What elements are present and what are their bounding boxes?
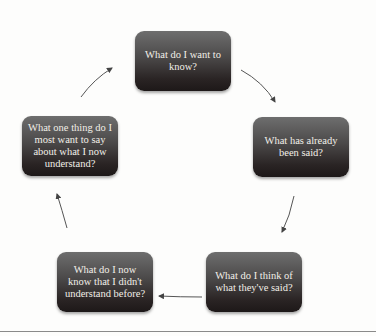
node-what-one-thing: What one thing do I most want to say abo… bbox=[22, 116, 118, 176]
arrow-n2-to-n3 bbox=[282, 196, 294, 232]
node-what-do-i-think: What do I think of what they've said? bbox=[206, 252, 302, 312]
node-label: What do I want to know? bbox=[139, 49, 227, 73]
node-what-do-i-now-know: What do I now know that I didn't underst… bbox=[57, 252, 153, 312]
arrow-n5-to-n1 bbox=[81, 68, 112, 97]
node-label: What has already been said? bbox=[257, 135, 345, 159]
node-what-has-already-been-said: What has already been said? bbox=[253, 117, 349, 177]
node-what-do-i-want-to-know: What do I want to know? bbox=[135, 31, 231, 91]
arrow-n3-to-n4 bbox=[159, 296, 202, 297]
bottom-divider bbox=[0, 331, 376, 332]
node-label: What do I now know that I didn't underst… bbox=[61, 264, 149, 300]
arrow-n4-to-n5 bbox=[57, 194, 67, 228]
node-label: What do I think of what they've said? bbox=[210, 270, 298, 294]
node-label: What one thing do I most want to say abo… bbox=[26, 122, 114, 170]
arrow-n1-to-n2 bbox=[241, 70, 275, 102]
